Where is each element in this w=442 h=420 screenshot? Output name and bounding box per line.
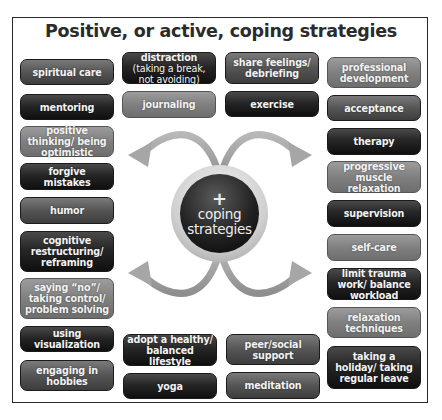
plus-icon: + [212,191,227,207]
strategy-saying-no: saying “no”/ taking control/ problem sol… [20,278,114,319]
strategy-limit-trauma-work: limit trauma work/ balance workload [327,268,421,300]
strategy-self-care: self-care [327,234,421,261]
strategy-exercise: exercise [225,91,319,117]
strategy-distraction: distraction (taking a break, not avoidin… [122,52,216,84]
center-circle: + coping strategies [180,174,259,253]
center-label-line1: coping [198,207,241,222]
strategy-therapy: therapy [327,128,421,155]
strategy-professional-development: professional development [327,57,421,88]
strategy-spiritual-care: spiritual care [20,59,114,85]
strategy-meditation: meditation [226,372,320,399]
distraction-rest: (taking a break, not avoiding) [133,63,206,85]
strategy-share-feelings: share feelings/ debriefing [225,52,319,84]
strategy-positive-thinking: positive thinking/ being optimistic [20,126,114,157]
strategy-progressive-muscle-relaxation: progressive muscle relaxation [327,161,421,193]
strategy-taking-a-holiday: taking a holiday/ taking regular leave [327,346,421,389]
strategy-engaging-in-hobbies: engaging in hobbies [20,360,114,391]
strategy-mentoring: mentoring [20,94,114,120]
strategy-yoga: yoga [123,373,217,399]
strategy-using-visualization: using visualization [20,326,114,352]
strategy-acceptance: acceptance [327,95,421,121]
strategy-journaling: journaling [122,91,216,118]
strategy-cognitive-restructuring: cognitive restructuring/ reframing [20,231,114,272]
strategy-peer-social-support: peer/social support [226,334,320,365]
strategy-relaxation-techniques: relaxation techniques [327,307,421,338]
center-label-line2: strategies [187,222,251,237]
strategy-adopt-healthy-lifestyle: adopt a healthy/ balanced lifestyle [123,334,217,366]
strategy-humor: humor [20,197,114,224]
strategy-forgive-mistakes: forgive mistakes [20,163,114,190]
distraction-bold: distraction [141,52,197,63]
strategy-supervision: supervision [327,200,421,227]
